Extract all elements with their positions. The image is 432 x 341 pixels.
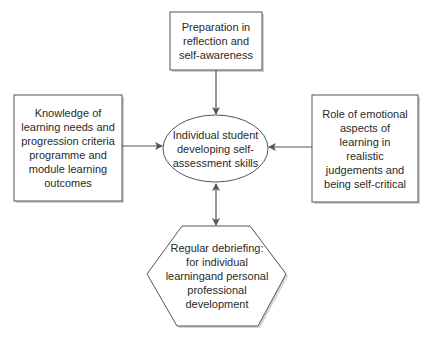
center-line-2: developing self-	[173, 142, 259, 156]
bottom-hexagon-label: Regular debriefing: for individual learn…	[157, 228, 277, 324]
top-box-line-2: reflection and	[179, 34, 253, 48]
left-box-line-6: outcomes	[21, 176, 115, 190]
left-box-line-3: progression criteria	[21, 134, 115, 148]
left-box-label: Knowledge of learning needs and progress…	[14, 95, 122, 201]
center-line-1: Individual student	[173, 128, 259, 142]
left-box-line-4: programme and	[21, 148, 115, 162]
left-box-line-1: Knowledge of	[21, 106, 115, 120]
bottom-line-2: for individual	[166, 255, 269, 269]
right-box-line-1: Role of emotional	[322, 107, 408, 121]
bottom-line-4: professional	[166, 283, 269, 297]
bottom-line-5: development	[166, 297, 269, 311]
right-box-line-2: aspects of	[322, 121, 408, 135]
left-box-line-2: learning needs and	[21, 120, 115, 134]
center-ellipse-label: Individual student developing self- asse…	[163, 115, 268, 182]
top-box-line-1: Preparation in	[179, 20, 253, 34]
top-box-label: Preparation in reflection and self-aware…	[170, 12, 262, 70]
top-box-line-3: self-awareness	[179, 48, 253, 62]
right-box-line-6: being self-critical	[322, 177, 408, 191]
left-box-line-5: module learning	[21, 162, 115, 176]
bottom-line-1: Regular debriefing:	[166, 241, 269, 255]
right-box-line-3: learning in	[322, 135, 408, 149]
center-line-3: assessment skills	[173, 156, 259, 170]
right-box-line-5: judgements and	[322, 163, 408, 177]
bottom-line-3: learningand personal	[166, 269, 269, 283]
right-box-label: Role of emotional aspects of learning in…	[312, 95, 418, 202]
right-box-line-4: realistic	[322, 149, 408, 163]
